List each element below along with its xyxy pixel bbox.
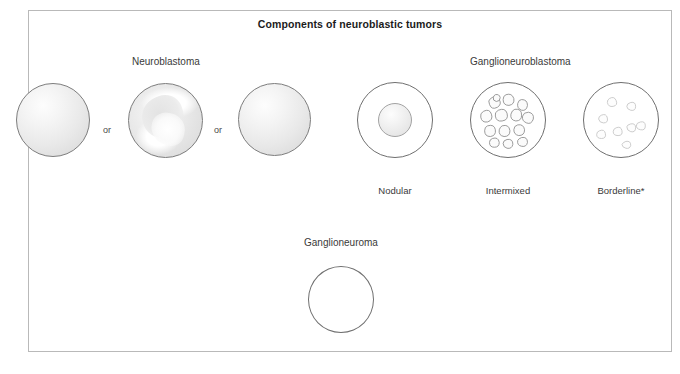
figure-frame: Components of neuroblastic tumors Neurob… — [28, 10, 672, 352]
figure-title: Components of neuroblastic tumors — [29, 18, 671, 30]
neuroblastoma-swirl-circle — [128, 83, 203, 158]
ganglioneuroblastoma-borderline-circle — [583, 82, 659, 158]
intermixed-blob-pattern-icon — [471, 83, 545, 157]
sub-label-borderline: Borderline* — [583, 185, 659, 196]
group-header-ganglioneuroma: Ganglioneuroma — [304, 237, 378, 248]
group-header-neuroblastoma: Neuroblastoma — [132, 56, 200, 67]
ganglioneuroblastoma-nodular-inner-nodule — [378, 103, 412, 137]
borderline-blob-pattern-icon — [584, 83, 658, 157]
ganglioneuroblastoma-intermixed-circle — [470, 82, 546, 158]
sub-label-intermixed: Intermixed — [470, 185, 546, 196]
neuroblastoma-solid-circle-1 — [16, 83, 90, 157]
or-label-2: or — [214, 125, 222, 135]
neuroblastoma-solid-circle-2 — [238, 83, 311, 156]
group-header-ganglioneuroblastoma: Ganglioneuroblastoma — [470, 56, 571, 67]
ganglioneuroma-circle — [308, 266, 374, 333]
sub-label-nodular: Nodular — [357, 185, 433, 196]
or-label-1: or — [103, 125, 111, 135]
